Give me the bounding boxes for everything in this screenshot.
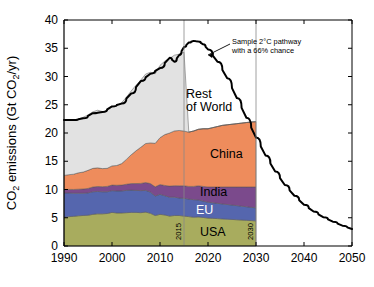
ytick-label-15: 15 <box>45 154 59 168</box>
ytick-label-5: 5 <box>51 211 58 225</box>
vertical-marker-label-2030: 2030 <box>246 223 255 240</box>
co2-emissions-chart: 2015203005101520253035401990200020102020… <box>0 0 374 287</box>
y-axis-title: CO2 emissions (Gt CO2/yr) <box>4 56 21 211</box>
xtick-label-2010: 2010 <box>147 251 174 265</box>
series-label-eu: EU <box>196 203 213 217</box>
ytick-label-25: 25 <box>45 98 59 112</box>
xtick-label-2030: 2030 <box>243 251 270 265</box>
pathway-annotation: Sample 2°C pathwaywith a 66% chance <box>231 37 301 55</box>
xtick-label-2040: 2040 <box>291 251 318 265</box>
series-label-usa: USA <box>200 225 226 239</box>
ytick-label-35: 35 <box>45 41 59 55</box>
ytick-label-20: 20 <box>45 126 59 140</box>
ytick-label-40: 40 <box>45 13 59 27</box>
series-label-india: India <box>200 185 227 199</box>
xtick-label-2050: 2050 <box>339 251 366 265</box>
vertical-marker-label-2015: 2015 <box>174 223 183 240</box>
xtick-label-1990: 1990 <box>51 251 78 265</box>
ytick-label-30: 30 <box>45 70 59 84</box>
series-label-china: China <box>210 147 243 161</box>
xtick-label-2000: 2000 <box>99 251 126 265</box>
xtick-label-2020: 2020 <box>195 251 222 265</box>
chart-canvas: 2015203005101520253035401990200020102020… <box>0 0 374 287</box>
ytick-label-10: 10 <box>45 183 59 197</box>
